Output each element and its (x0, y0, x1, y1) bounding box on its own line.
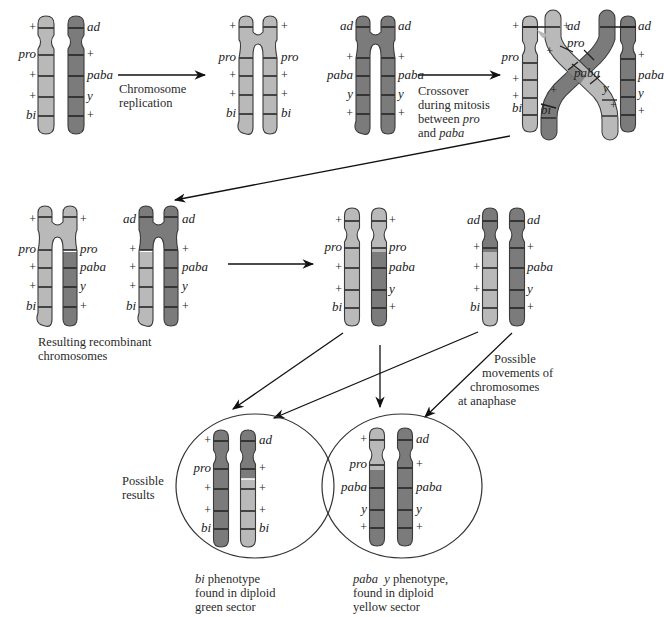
crossover-chromatid-light-outer (521, 0, 540, 200)
wildtype-allele-label: + (398, 106, 405, 120)
wildtype-allele-label: + (229, 68, 236, 82)
gene-label-bi: bi (281, 106, 291, 120)
arrow-anaphase-1 (233, 333, 343, 409)
gene-label-bi: bi (126, 299, 136, 313)
wildtype-allele-label: + (335, 213, 342, 227)
wildtype-allele-label: + (129, 242, 136, 256)
wildtype-allele-label: + (473, 260, 480, 274)
wildtype-allele-label: + (473, 282, 480, 296)
gene-label-ad: ad (87, 20, 100, 34)
wildtype-allele-label: + (527, 300, 534, 314)
caption-text: phenotype, (390, 572, 448, 586)
wildtype-allele-label: + (229, 87, 236, 101)
wildtype-allele-label: + (182, 242, 189, 256)
gene-label-y: y (389, 282, 395, 296)
wildtype-allele-label: + (29, 20, 36, 34)
gene-label-bi: bi (26, 299, 36, 313)
gene-label-bi: bi (541, 103, 551, 117)
gene-name: pro (463, 112, 480, 126)
wildtype-allele-label: + (550, 83, 557, 97)
gene-label-ad: ad (567, 19, 580, 33)
parental-chromosome-dark (66, 0, 86, 200)
wildtype-allele-label: + (182, 299, 189, 313)
caption-anaphase: Possible movements of chromosomes at ana… (458, 352, 553, 408)
gene-label-y: y (527, 282, 533, 296)
crossover-chromatid-dark-outer (619, 0, 638, 200)
wildtype-allele-label: + (335, 282, 342, 296)
wildtype-allele-label: + (29, 279, 36, 293)
caption-result-left: bi phenotype found in diploid green sect… (195, 572, 276, 614)
wildtype-allele-label: + (204, 503, 211, 517)
wildtype-allele-label: + (610, 98, 617, 112)
gene-label-bi: bi (259, 521, 269, 535)
wildtype-allele-label: + (129, 279, 136, 293)
wildtype-allele-label: + (416, 457, 423, 471)
gene-label-ad: ad (340, 19, 353, 33)
caption-line: found in diploid (195, 586, 276, 600)
wildtype-allele-label: + (87, 108, 94, 122)
gene-label-paba: paba (341, 480, 367, 494)
gene-label-pro: pro (324, 240, 342, 254)
wildtype-allele-label: + (360, 520, 367, 534)
gene-label-paba: paba (398, 68, 424, 82)
wildtype-allele-label: + (360, 432, 367, 446)
gene-label-bi: bi (26, 108, 36, 122)
gene-label-pro: pro (193, 461, 211, 475)
wildtype-allele-label: + (638, 48, 645, 62)
gene-label-y: y (416, 502, 422, 516)
gene-label-pro: pro (80, 242, 98, 256)
caption-line: chromosomes (38, 349, 152, 363)
wildtype-allele-label: + (87, 47, 94, 61)
gene-label-pro: pro (281, 50, 299, 64)
gene-label-pro: pro (18, 242, 36, 256)
gene-label-ad: ad (259, 433, 272, 447)
caption-line: at anaphase (458, 394, 553, 408)
wildtype-allele-label: + (204, 481, 211, 495)
wildtype-allele-label: + (29, 68, 36, 82)
gene-label-ad: ad (527, 213, 540, 227)
gene-label-ad: ad (638, 19, 651, 33)
wildtype-allele-label: + (346, 50, 353, 64)
gene-label-ad: ad (467, 213, 480, 227)
wildtype-allele-label: + (512, 19, 519, 33)
wildtype-allele-label: + (259, 461, 266, 475)
caption-line: replication (119, 96, 186, 110)
chromatid-recombinant-dark-light (481, 0, 500, 400)
gene-label-ad: ad (416, 432, 429, 446)
gene-label-bi: bi (470, 300, 480, 314)
wildtype-allele-label: + (473, 240, 480, 254)
caption-line: Crossover (418, 84, 490, 98)
gene-label-pro: pro (349, 457, 367, 471)
caption-text: phenotype (205, 572, 260, 586)
wildtype-allele-label: + (389, 213, 396, 227)
gene-label-pro: pro (567, 36, 585, 50)
gene-label-paba: paba (416, 480, 442, 494)
caption-line: Possible (122, 474, 164, 488)
gene-name: bi (195, 572, 205, 586)
gene-label-ad: ad (398, 19, 411, 33)
caption-possible-results: Possible results (122, 474, 164, 502)
gene-label-paba: paba (638, 68, 664, 82)
wildtype-allele-label: + (281, 68, 288, 82)
wildtype-allele-label: + (398, 50, 405, 64)
caption-line: green sector (195, 600, 276, 614)
wildtype-allele-label: + (80, 212, 87, 226)
gene-label-bi: bi (512, 101, 522, 115)
caption-line: Possible (458, 352, 553, 366)
caption-line: found in diploid (353, 586, 448, 600)
gene-label-pro: pro (18, 47, 36, 61)
gene-label-y: y (398, 87, 404, 101)
gene-label-pro: pro (389, 240, 407, 254)
gene-label-y: y (603, 81, 609, 95)
wildtype-allele-label: + (259, 503, 266, 517)
gene-label-ad: ad (123, 212, 136, 226)
wildtype-allele-label: + (546, 44, 553, 58)
arrow-to-recombinant (175, 136, 510, 200)
wildtype-allele-label: + (80, 299, 87, 313)
gene-label-paba: paba (327, 68, 353, 82)
wildtype-allele-label: + (416, 520, 423, 534)
wildtype-allele-label: + (335, 260, 342, 274)
gene-label-y: y (80, 279, 86, 293)
